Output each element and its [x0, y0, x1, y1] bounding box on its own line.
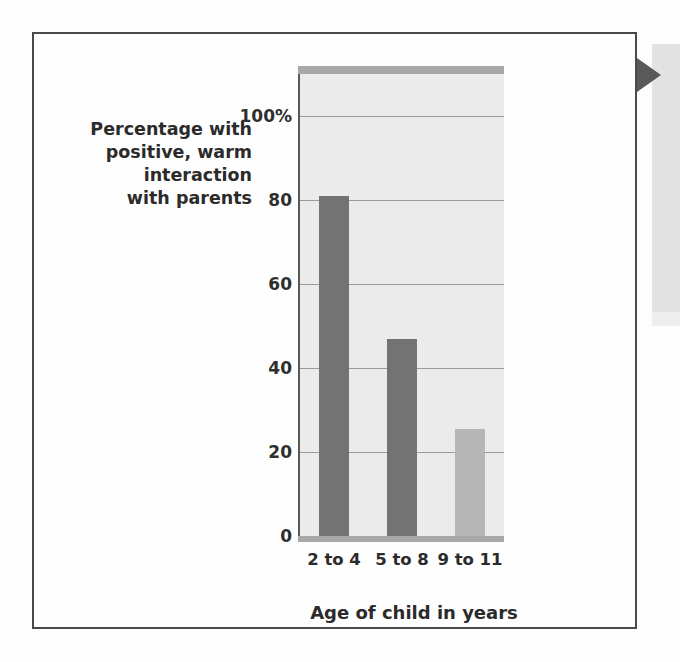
- y-tick-label: 60: [268, 276, 292, 293]
- plot-top-band: [298, 66, 504, 74]
- y-tick-label: 20: [268, 444, 292, 461]
- x-tick-label: 9 to 11: [425, 552, 515, 569]
- y-tick-label: 80: [268, 192, 292, 209]
- callout-arrow-icon: [637, 58, 661, 92]
- page-canvas: Percentage with positive, warm interacti…: [0, 0, 680, 662]
- gridline: [300, 116, 504, 117]
- y-tick-label: 40: [268, 360, 292, 377]
- right-edge-panel-shadow: [652, 312, 680, 326]
- bar: [319, 196, 349, 536]
- bar: [455, 429, 485, 536]
- y-tick-label: 0: [280, 528, 292, 545]
- plot-area: [300, 74, 504, 536]
- chart-plot-wrapper: [298, 66, 504, 544]
- y-axis-tick-labels: 020406080100%: [220, 66, 292, 544]
- figure-border-box: Percentage with positive, warm interacti…: [32, 32, 637, 629]
- y-tick-label: 100%: [239, 108, 292, 125]
- x-axis-spine: [298, 536, 504, 542]
- bar: [387, 339, 417, 536]
- x-axis-title: Age of child in years: [264, 602, 564, 623]
